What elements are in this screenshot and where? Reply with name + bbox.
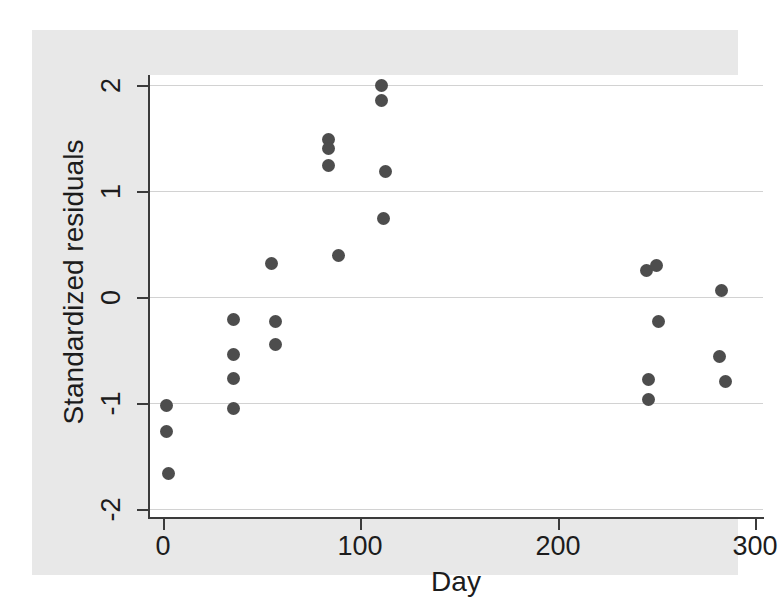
y-axis-tick-label-text: 1: [96, 169, 127, 215]
x-axis-tick-label: 100: [315, 531, 405, 562]
y-axis-tick-label: 1: [88, 176, 134, 206]
x-axis-tick-label: 0: [118, 531, 208, 562]
x-axis-tick: [558, 519, 560, 530]
gridline-y: [149, 191, 763, 192]
y-axis-tick-label: -1: [88, 388, 134, 418]
gridline-y: [149, 509, 763, 510]
gridline-y: [149, 297, 763, 298]
y-axis-tick-label-text: -2: [96, 487, 127, 533]
data-point: [377, 212, 390, 225]
y-axis-tick-label: -2: [88, 494, 134, 524]
data-point: [715, 284, 728, 297]
y-axis-tick-label: 0: [88, 282, 134, 312]
data-point: [322, 159, 335, 172]
data-point: [227, 372, 240, 385]
data-point: [322, 142, 335, 155]
y-axis-tick: [137, 403, 148, 405]
y-axis-tick-label-text: 2: [96, 63, 127, 109]
y-axis-tick: [137, 191, 148, 193]
y-axis-tick-label: 2: [88, 70, 134, 100]
y-axis-tick: [137, 297, 148, 299]
y-axis-line: [148, 75, 150, 519]
gridline-y: [149, 85, 763, 86]
x-axis-line: [149, 517, 764, 519]
y-axis-tick: [137, 509, 148, 511]
data-point: [332, 249, 345, 262]
y-axis-tick-label-text: -1: [96, 381, 127, 427]
x-axis-tick-label: 300: [710, 531, 781, 562]
gridline-y: [149, 403, 763, 404]
data-point: [642, 373, 655, 386]
x-axis-title: Day: [149, 566, 763, 598]
data-point: [719, 375, 732, 388]
data-point: [265, 257, 278, 270]
y-axis-title: Standardized residuals: [58, 62, 90, 502]
y-axis-tick-label-text: 0: [96, 275, 127, 321]
x-axis-tick: [163, 519, 165, 530]
x-axis-tick: [755, 519, 757, 530]
y-axis-tick: [137, 85, 148, 87]
x-axis-tick-label: 200: [513, 531, 603, 562]
data-point: [269, 338, 282, 351]
x-axis-tick: [360, 519, 362, 530]
plot-area: [149, 75, 763, 517]
figure-panel: 210-1-2 0100200300 Standardized residual…: [32, 30, 738, 575]
data-point: [642, 393, 655, 406]
data-point: [160, 425, 173, 438]
